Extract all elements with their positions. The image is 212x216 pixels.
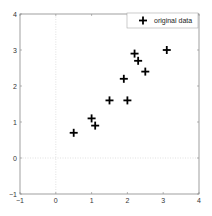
y-tick-label: 2 [13, 83, 17, 90]
x-tick-label: 1 [90, 197, 94, 204]
x-tick-label: 2 [125, 197, 129, 204]
y-tick-label: 0 [13, 155, 17, 162]
y-tick-label: 4 [13, 11, 17, 18]
x-tick-label: 4 [197, 197, 201, 204]
legend: original data [127, 13, 198, 28]
scatter-chart: −101234−101234 original data [0, 0, 212, 216]
x-tick-label: 0 [54, 197, 58, 204]
y-tick-label: −1 [9, 191, 17, 198]
x-tick-label: −1 [16, 197, 24, 204]
y-tick-label: 1 [13, 119, 17, 126]
x-tick-label: 3 [161, 197, 165, 204]
legend-label: original data [154, 17, 192, 25]
y-tick-label: 3 [13, 47, 17, 54]
